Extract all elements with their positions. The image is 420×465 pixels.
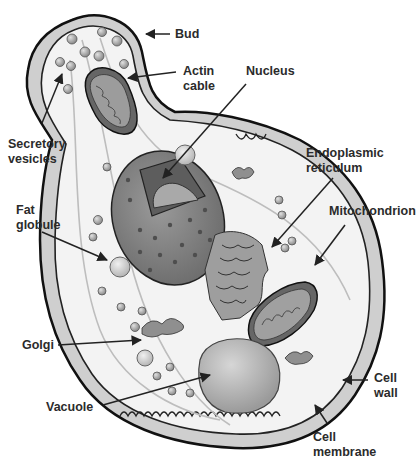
vacuole [199, 339, 280, 413]
label-mitochondrion: Mitochondrion [329, 204, 416, 219]
label-secretory-vesicles: Secretory vesicles [8, 137, 66, 167]
label-cell-wall: Cell wall [374, 371, 398, 401]
label-fat-globule: Fat globule [16, 203, 60, 233]
label-bud: Bud [175, 27, 199, 42]
label-endoplasmic-reticulum: Endoplasmic reticulum [306, 146, 384, 176]
label-actin-cable: Actin cable [183, 64, 215, 94]
label-nucleus: Nucleus [246, 64, 295, 79]
label-vacuole: Vacuole [46, 400, 93, 415]
label-golgi: Golgi [22, 338, 54, 353]
label-cell-membrane: Cell membrane [313, 430, 376, 460]
